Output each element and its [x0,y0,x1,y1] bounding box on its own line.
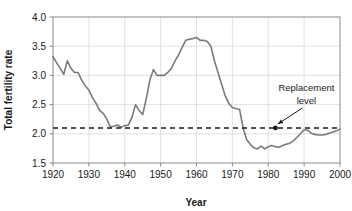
x-tick-label: 1950 [150,169,173,180]
y-axis-title: Total fertility rate [3,49,14,130]
replacement-level-annotation-line2: level [297,95,317,106]
x-axis-title: Year [185,197,206,208]
y-tick-label: 4.0 [32,12,46,23]
x-tick-label: 1970 [221,169,244,180]
y-tick-label: 3.5 [32,41,46,52]
replacement-level-annotation-line1: Replacement [278,82,334,93]
x-tick-label: 1980 [257,169,280,180]
y-tick-label: 1.5 [32,158,46,169]
y-tick-label: 2.0 [32,128,46,139]
x-tick-label: 1920 [42,169,65,180]
y-tick-label: 3.0 [32,70,46,81]
chart-figure: 192019301940195019601970198019902000 1.5… [0,0,352,211]
x-tick-label: 2000 [329,169,352,180]
x-tick-label: 1940 [114,169,137,180]
x-tick-label: 1930 [78,169,101,180]
x-tick-labels: 192019301940195019601970198019902000 [42,169,352,180]
x-tick-label: 1960 [185,169,208,180]
replacement-level-marker-dot [273,126,278,131]
x-tick-label: 1990 [293,169,316,180]
fertility-rate-line-chart: 192019301940195019601970198019902000 1.5… [0,0,352,211]
y-tick-label: 2.5 [32,99,46,110]
